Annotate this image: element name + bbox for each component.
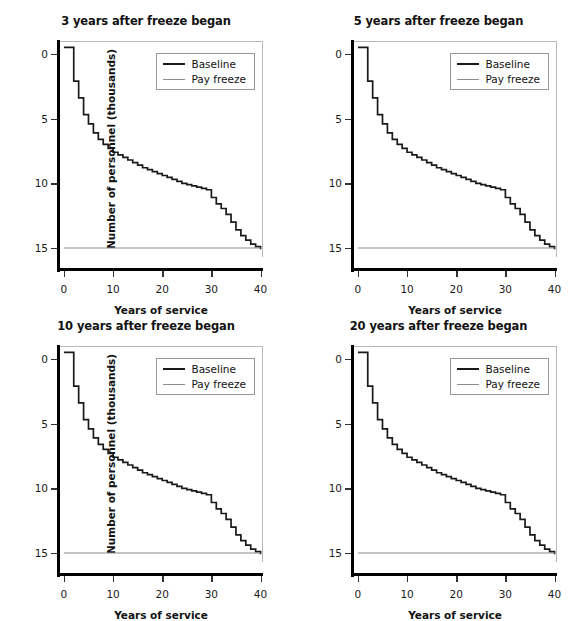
x-tick-mark xyxy=(64,576,65,582)
y-tick-label: 10 xyxy=(329,177,342,189)
x-tick-mark xyxy=(211,271,212,277)
x-tick-label: 20 xyxy=(450,283,463,295)
x-tick-label: 0 xyxy=(61,283,68,295)
legend-item-baseline: Baseline xyxy=(163,363,246,375)
plot-area: 151050010203040Years of serviceBaselineP… xyxy=(353,346,557,562)
x-tick-label: 20 xyxy=(156,588,169,600)
chart-legend: BaselinePay freeze xyxy=(156,358,255,395)
y-tick-mark xyxy=(345,553,351,554)
x-tick-label: 0 xyxy=(355,283,362,295)
y-tick-label: 5 xyxy=(41,418,48,430)
y-tick-label: 5 xyxy=(335,113,342,125)
x-tick-label: 10 xyxy=(400,283,413,295)
plot-area: 151050010203040Years of serviceNumber of… xyxy=(59,41,263,257)
x-tick-label: 40 xyxy=(548,283,561,295)
panel-title: 20 years after freeze began xyxy=(292,319,585,333)
x-tick-mark xyxy=(456,271,457,277)
legend-line-icon xyxy=(163,79,185,80)
legend-item-pay-freeze: Pay freeze xyxy=(457,378,540,390)
y-tick-mark xyxy=(345,424,351,425)
y-tick-mark xyxy=(51,54,57,55)
x-tick-label: 30 xyxy=(499,588,512,600)
x-tick-mark xyxy=(261,271,262,277)
x-tick-mark xyxy=(162,576,163,582)
legend-label: Baseline xyxy=(485,363,530,375)
x-tick-mark xyxy=(407,576,408,582)
legend-label: Baseline xyxy=(191,363,236,375)
x-tick-mark xyxy=(261,576,262,582)
y-tick-mark xyxy=(51,359,57,360)
chart-panel-1: 3 years after freeze began15105001020304… xyxy=(0,0,292,305)
x-tick-mark xyxy=(113,576,114,582)
x-tick-mark xyxy=(358,271,359,277)
x-axis-title: Years of service xyxy=(59,609,263,621)
y-tick-label: 0 xyxy=(41,353,48,365)
x-tick-label: 30 xyxy=(499,283,512,295)
x-tick-label: 40 xyxy=(254,588,267,600)
chart-legend: BaselinePay freeze xyxy=(450,53,549,90)
chart-panel-2: 5 years after freeze began15105001020304… xyxy=(292,0,585,305)
panel-title: 3 years after freeze began xyxy=(0,14,292,28)
axis-bottom xyxy=(351,573,557,576)
x-tick-label: 30 xyxy=(205,588,218,600)
x-tick-mark xyxy=(358,576,359,582)
legend-item-baseline: Baseline xyxy=(457,58,540,70)
y-tick-mark xyxy=(51,488,57,489)
y-tick-label: 10 xyxy=(329,482,342,494)
x-tick-label: 20 xyxy=(450,588,463,600)
chart-legend: BaselinePay freeze xyxy=(450,358,549,395)
chart-panel-3: 10 years after freeze began1510500102030… xyxy=(0,305,292,611)
legend-line-icon xyxy=(163,63,185,65)
y-tick-label: 5 xyxy=(41,113,48,125)
axis-bottom xyxy=(57,268,263,271)
x-tick-mark xyxy=(555,271,556,277)
y-tick-mark xyxy=(51,424,57,425)
x-tick-label: 10 xyxy=(400,588,413,600)
legend-label: Baseline xyxy=(191,58,236,70)
y-tick-mark xyxy=(51,183,57,184)
x-tick-mark xyxy=(162,271,163,277)
legend-label: Pay freeze xyxy=(485,378,540,390)
legend-label: Baseline xyxy=(485,58,530,70)
y-tick-label: 15 xyxy=(329,547,342,559)
plot-area: 151050010203040Years of serviceNumber of… xyxy=(59,346,263,562)
x-tick-mark xyxy=(407,271,408,277)
y-tick-label: 0 xyxy=(335,48,342,60)
x-tick-label: 30 xyxy=(205,283,218,295)
y-tick-label: 10 xyxy=(35,177,48,189)
chart-legend: BaselinePay freeze xyxy=(156,53,255,90)
x-tick-mark xyxy=(456,576,457,582)
legend-line-icon xyxy=(163,384,185,385)
x-tick-mark xyxy=(113,271,114,277)
legend-label: Pay freeze xyxy=(191,73,246,85)
chart-panel-4: 20 years after freeze began1510500102030… xyxy=(292,305,585,611)
x-tick-mark xyxy=(505,271,506,277)
x-tick-label: 10 xyxy=(106,588,119,600)
y-tick-label: 15 xyxy=(35,242,48,254)
y-tick-mark xyxy=(345,359,351,360)
axis-bottom xyxy=(351,268,557,271)
y-tick-mark xyxy=(345,248,351,249)
x-tick-mark xyxy=(555,576,556,582)
x-tick-label: 40 xyxy=(548,588,561,600)
x-tick-label: 20 xyxy=(156,283,169,295)
y-tick-label: 5 xyxy=(335,418,342,430)
legend-item-pay-freeze: Pay freeze xyxy=(457,73,540,85)
y-tick-label: 15 xyxy=(35,547,48,559)
y-tick-mark xyxy=(345,54,351,55)
panel-title: 5 years after freeze began xyxy=(292,14,585,28)
x-tick-label: 40 xyxy=(254,283,267,295)
legend-item-pay-freeze: Pay freeze xyxy=(163,378,246,390)
y-tick-label: 0 xyxy=(41,48,48,60)
y-tick-mark xyxy=(345,488,351,489)
legend-line-icon xyxy=(163,368,185,370)
y-tick-mark xyxy=(345,119,351,120)
legend-label: Pay freeze xyxy=(485,73,540,85)
y-tick-mark xyxy=(51,119,57,120)
legend-line-icon xyxy=(457,368,479,370)
x-tick-mark xyxy=(505,576,506,582)
x-tick-label: 0 xyxy=(355,588,362,600)
y-tick-label: 10 xyxy=(35,482,48,494)
legend-item-baseline: Baseline xyxy=(163,58,246,70)
